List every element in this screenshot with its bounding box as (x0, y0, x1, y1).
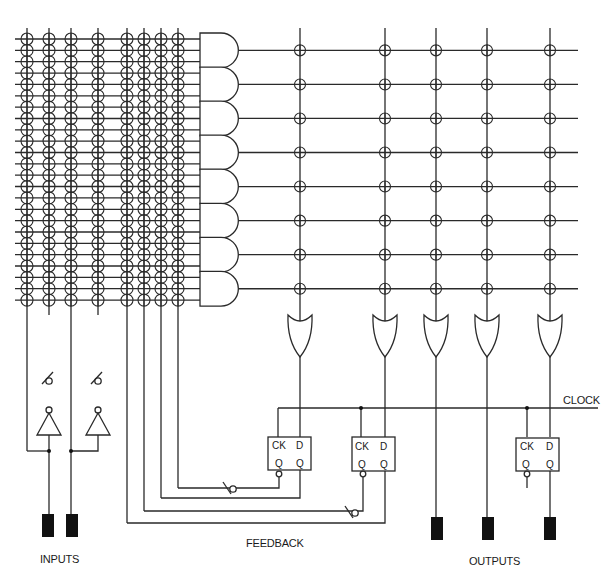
or-gate-icon (288, 315, 312, 357)
ff1-d-label: D (296, 440, 303, 451)
and-gate-icon (200, 101, 238, 136)
ff3-qbar-bubble-icon (524, 471, 530, 477)
or-gate-icon (373, 315, 397, 357)
input-2-inverter-feed (71, 435, 98, 451)
input-pin-2 (66, 514, 78, 537)
ff2-d-label: D (380, 441, 387, 452)
and-gate-icon (200, 271, 238, 306)
ff2-qbar-feedback (144, 477, 363, 511)
ff2-qbar-bubble-icon (360, 471, 366, 477)
outputs-label: OUTPUTS (469, 555, 520, 567)
pal-logic-diagram (0, 0, 611, 573)
fuse-crosspoints (21, 33, 556, 306)
inverter-bubble-icon (95, 407, 101, 413)
input-inverter-2-icon (86, 413, 110, 435)
io-pins (42, 406, 556, 540)
feedback-switch-2-icon (352, 510, 358, 516)
and-gate-icon (200, 33, 238, 68)
junction-dot (359, 406, 363, 410)
feedback-label: FEEDBACK (246, 537, 304, 549)
and-gate-icon (200, 67, 238, 102)
input-pin-1 (42, 514, 54, 537)
and-gate-icon (200, 203, 238, 238)
inverter-bubble-icon (46, 407, 52, 413)
or-gate-icon (424, 315, 448, 357)
ff1-q-label: Q (296, 458, 304, 469)
and-gate-icon (200, 169, 238, 204)
ff2-qbar-label: Q (358, 459, 366, 470)
ff2-ck-label: CK (355, 441, 369, 452)
feedback-switch-1-icon (230, 486, 236, 492)
junction-dot (47, 449, 51, 453)
output-pin-2 (482, 517, 494, 540)
output-pin-3 (544, 517, 556, 540)
ff3-d-label: D (546, 441, 553, 452)
and-gate-icon (200, 237, 238, 272)
ff3-ck-label: CK (520, 441, 534, 452)
ff3-q-label: Q (546, 459, 554, 470)
input-inverter-1-icon (37, 413, 61, 435)
output-pin-1 (431, 517, 443, 540)
or-gate-icon (475, 315, 499, 357)
or-gate-icon (538, 315, 562, 357)
junction-dot (69, 449, 73, 453)
clock-label: CLOCK (563, 394, 600, 406)
ff1-ck-label: CK (272, 440, 286, 451)
ff1-qbar-bubble-icon (276, 471, 282, 477)
ff1-qbar-feedback (178, 477, 279, 488)
junction-dot (525, 406, 529, 410)
ff1-qbar-label: Q (275, 458, 283, 469)
ff2-q-feedback (127, 471, 385, 523)
and-gate-icon (200, 135, 238, 170)
ff3-qbar-label: Q (522, 459, 530, 470)
inputs-label: INPUTS (40, 553, 79, 565)
ff2-q-label: Q (380, 459, 388, 470)
